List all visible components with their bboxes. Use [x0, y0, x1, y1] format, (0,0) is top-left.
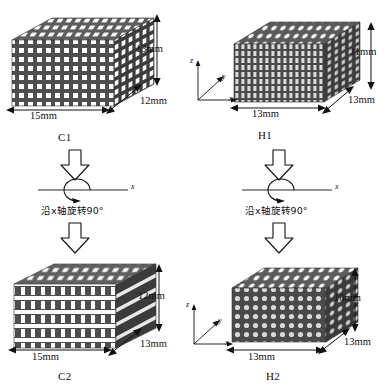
dim-h1-width: 13mm [252, 108, 279, 119]
rotation-symbol-right [240, 176, 344, 204]
arrow-right-bottom [262, 222, 296, 254]
dim-c2-height: 12mm [138, 290, 165, 301]
axis-label-x-bottom: x [225, 338, 229, 347]
axis-label-x-top: x [229, 94, 233, 103]
rotation-caption-right: 沿x轴旋转90° [245, 203, 307, 217]
specimen-label-h2: H2 [266, 370, 280, 382]
axis-label-x-right-rot: x [335, 182, 339, 191]
axis-label-y-bottom: y [218, 316, 222, 325]
specimen-label-c2: C2 [58, 370, 71, 382]
specimen-label-h1: H1 [258, 129, 272, 141]
dim-h2-width: 13mm [248, 351, 275, 362]
dim-c1-depth-line [104, 82, 144, 116]
axis-label-x-left-rot: x [131, 182, 135, 191]
dim-c1-width: 15mm [30, 110, 57, 121]
dim-c1-width-line [6, 104, 110, 116]
rotation-symbol-left [36, 176, 140, 204]
dim-h2-width-line [226, 344, 324, 356]
dim-c2-width: 15mm [32, 351, 59, 362]
dim-c1-height: 13mm [136, 43, 163, 54]
axis-label-y-top: y [222, 72, 226, 81]
dim-c2-width-line [8, 344, 112, 356]
arrow-left-bottom [58, 222, 92, 254]
figure-root: 13mm 12mm 15mm C1 [0, 0, 392, 389]
dim-c1-depth: 12mm [140, 95, 167, 106]
dim-h2-depth: 13mm [344, 336, 371, 347]
dim-h2-height: 10mm [334, 292, 361, 303]
dim-h1-height: 11mm [350, 46, 376, 57]
dim-c2-depth: 13mm [140, 338, 167, 349]
axis-label-z-bottom: z [186, 300, 189, 309]
axis-label-z-top: z [190, 56, 193, 65]
rotation-caption-left: 沿x轴旋转90° [41, 203, 103, 217]
specimen-label-c1: C1 [58, 131, 71, 143]
dim-h1-depth: 13mm [348, 94, 375, 105]
